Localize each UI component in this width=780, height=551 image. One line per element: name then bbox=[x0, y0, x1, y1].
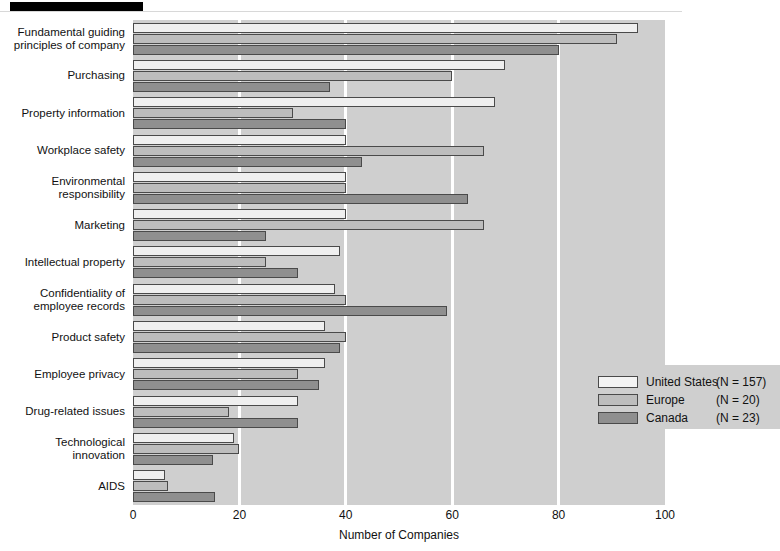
bar-group bbox=[133, 20, 665, 57]
bar-group bbox=[133, 430, 665, 467]
bar-group bbox=[133, 57, 665, 94]
legend-label-europe: Europe bbox=[646, 393, 685, 407]
legend: United States (N = 157) Europe (N = 20) … bbox=[584, 365, 780, 429]
bar-canada bbox=[133, 306, 447, 316]
bar-europe bbox=[133, 407, 229, 417]
bar-europe bbox=[133, 34, 617, 44]
bar-europe bbox=[133, 332, 346, 342]
x-tick-80: 80 bbox=[552, 508, 565, 522]
bar-europe bbox=[133, 481, 168, 491]
bar-group bbox=[133, 244, 665, 281]
bar-canada bbox=[133, 119, 346, 129]
legend-swatch-canada bbox=[598, 412, 638, 424]
bar-group bbox=[133, 169, 665, 206]
bar-europe bbox=[133, 369, 298, 379]
bar-canada bbox=[133, 380, 319, 390]
bar-canada bbox=[133, 194, 468, 204]
bar-canada bbox=[133, 157, 362, 167]
legend-n-canada: (N = 23) bbox=[716, 411, 760, 425]
bar-canada bbox=[133, 231, 266, 241]
bar-europe bbox=[133, 220, 484, 230]
bar-group bbox=[133, 207, 665, 244]
header-rule bbox=[10, 2, 143, 11]
bar-united-states bbox=[133, 135, 346, 145]
x-axis: 020406080100 bbox=[133, 505, 665, 525]
bar-canada bbox=[133, 82, 330, 92]
category-label: Marketing bbox=[0, 219, 125, 232]
legend-n-europe: (N = 20) bbox=[716, 393, 760, 407]
category-label: Technological innovation bbox=[0, 436, 125, 462]
bar-united-states bbox=[133, 284, 335, 294]
bar-europe bbox=[133, 146, 484, 156]
legend-item-canada: Canada (N = 23) bbox=[598, 411, 774, 425]
bar-europe bbox=[133, 183, 346, 193]
bar-group bbox=[133, 281, 665, 318]
bar-united-states bbox=[133, 470, 165, 480]
bar-europe bbox=[133, 444, 239, 454]
legend-swatch-united-states bbox=[598, 376, 638, 388]
bar-canada bbox=[133, 492, 215, 502]
bar-canada bbox=[133, 455, 213, 465]
legend-n-united-states: (N = 157) bbox=[716, 375, 766, 389]
bar-group bbox=[133, 132, 665, 169]
category-label: Drug-related issues bbox=[0, 405, 125, 418]
x-tick-60: 60 bbox=[446, 508, 459, 522]
category-label: AIDS bbox=[0, 480, 125, 493]
legend-label-united-states: United States bbox=[646, 375, 718, 389]
x-tick-0: 0 bbox=[130, 508, 137, 522]
bar-united-states bbox=[133, 60, 505, 70]
category-label: Property information bbox=[0, 107, 125, 120]
x-tick-100: 100 bbox=[655, 508, 675, 522]
bar-united-states bbox=[133, 97, 495, 107]
bar-europe bbox=[133, 295, 346, 305]
bar-united-states bbox=[133, 246, 340, 256]
bar-canada bbox=[133, 343, 340, 353]
bar-united-states bbox=[133, 23, 638, 33]
bar-united-states bbox=[133, 172, 346, 182]
legend-item-europe: Europe (N = 20) bbox=[598, 393, 774, 407]
bar-group bbox=[133, 95, 665, 132]
legend-label-canada: Canada bbox=[646, 411, 688, 425]
bar-united-states bbox=[133, 209, 346, 219]
bar-united-states bbox=[133, 433, 234, 443]
x-tick-20: 20 bbox=[233, 508, 246, 522]
bar-europe bbox=[133, 71, 452, 81]
header-hairline bbox=[0, 11, 682, 12]
category-label: Workplace safety bbox=[0, 144, 125, 157]
category-labels: Fundamental guiding principles of compan… bbox=[0, 20, 131, 505]
x-tick-40: 40 bbox=[339, 508, 352, 522]
bar-canada bbox=[133, 418, 298, 428]
bar-group bbox=[133, 468, 665, 505]
category-label: Intellectual property bbox=[0, 256, 125, 269]
x-axis-label: Number of Companies bbox=[133, 528, 665, 542]
bar-united-states bbox=[133, 321, 325, 331]
category-label: Product safety bbox=[0, 331, 125, 344]
bar-group bbox=[133, 318, 665, 355]
category-label: Environmental responsibility bbox=[0, 175, 125, 201]
category-label: Fundamental guiding principles of compan… bbox=[0, 26, 125, 52]
bar-europe bbox=[133, 257, 266, 267]
category-label: Purchasing bbox=[0, 69, 125, 82]
bar-united-states bbox=[133, 358, 325, 368]
bar-canada bbox=[133, 45, 559, 55]
legend-swatch-europe bbox=[598, 394, 638, 406]
category-label: Confidentiality of employee records bbox=[0, 287, 125, 313]
bar-united-states bbox=[133, 396, 298, 406]
plot-area: United States (N = 157) Europe (N = 20) … bbox=[133, 20, 665, 505]
bar-canada bbox=[133, 268, 298, 278]
bar-europe bbox=[133, 108, 293, 118]
bar-rows bbox=[133, 20, 665, 505]
category-label: Employee privacy bbox=[0, 368, 125, 381]
legend-item-united-states: United States (N = 157) bbox=[598, 375, 774, 389]
